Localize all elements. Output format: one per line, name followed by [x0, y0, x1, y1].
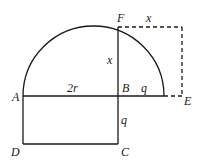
point-label-F: F [116, 11, 125, 25]
point-label-B: B [122, 81, 130, 95]
point-label-D: D [10, 145, 20, 159]
label-B-right: q [141, 81, 147, 95]
point-label-A: A [11, 90, 20, 104]
point-label-C: C [121, 145, 130, 159]
label-FB: x [106, 53, 113, 67]
geometry-diagram: A B C D E F 2r x x q q [0, 0, 201, 162]
label-AB: 2r [67, 81, 78, 95]
point-label-E: E [183, 94, 192, 108]
label-BC: q [121, 113, 127, 127]
label-F-top: x [145, 11, 152, 25]
